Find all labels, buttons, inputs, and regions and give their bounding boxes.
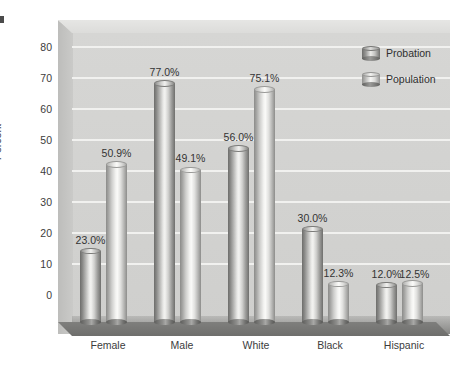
y-tick-20: 20 (26, 228, 52, 239)
bar-body (376, 285, 397, 322)
plot-top-edge (58, 20, 450, 33)
y-tick-10: 10 (26, 259, 52, 270)
bar-body (180, 170, 201, 322)
bar-cap (402, 280, 423, 287)
legend-swatch-probation-icon (362, 46, 380, 61)
bar-body (80, 251, 101, 322)
y-tick-30: 30 (26, 197, 52, 208)
x-tick-male: Male (152, 339, 212, 351)
bar-cap (254, 86, 275, 93)
y-axis-label: Percent (0, 124, 3, 160)
bar-body (402, 283, 423, 322)
legend-label-probation: Probation (386, 47, 431, 59)
bar-cap (106, 161, 127, 168)
bar-cap (80, 248, 101, 255)
y-tick-70: 70 (26, 73, 52, 84)
bar-cap (154, 80, 175, 87)
bar-label-black-probation: 30.0% (286, 212, 339, 224)
bar-chart: Percent 80 70 60 50 40 30 20 10 0 (0, 0, 461, 369)
bar-body (328, 284, 349, 322)
bar-hispanic-population (402, 283, 423, 322)
legend-item-population[interactable]: Population (362, 68, 454, 94)
bar-female-population (106, 164, 127, 322)
bar-male-population (180, 170, 201, 322)
y-tick-60: 60 (26, 104, 52, 115)
bar-black-population (328, 284, 349, 322)
bar-white-probation (228, 148, 249, 322)
bar-cap (180, 167, 201, 174)
bar-label-female-population: 50.9% (90, 147, 143, 159)
bar-label-hispanic-population: 12.5% (388, 268, 441, 280)
page-edge-mark (0, 16, 4, 23)
legend-item-probation[interactable]: Probation (362, 42, 454, 68)
bar-hispanic-probation (376, 285, 397, 322)
legend-label-population: Population (386, 73, 436, 85)
y-tick-80: 80 (26, 42, 52, 53)
bar-white-population (254, 89, 275, 322)
bar-label-male-probation: 77.0% (138, 66, 191, 78)
x-tick-female: Female (78, 339, 138, 351)
plot-left-wall (58, 20, 73, 334)
bar-label-white-population: 75.1% (238, 72, 291, 84)
bar-body (254, 89, 275, 322)
bar-body (106, 164, 127, 322)
x-tick-black: Black (300, 339, 360, 351)
chart-legend: Probation Population (362, 42, 454, 94)
y-tick-0: 0 (26, 290, 52, 301)
bar-label-black-population: 12.3% (312, 267, 365, 279)
bar-male-probation (154, 83, 175, 322)
y-axis-ticks: 80 70 60 50 40 30 20 10 0 (22, 0, 52, 369)
bar-label-male-population: 49.1% (164, 152, 217, 164)
bar-body (154, 83, 175, 322)
bar-body (228, 148, 249, 322)
x-tick-hispanic: Hispanic (372, 339, 436, 351)
bar-cap (376, 282, 397, 289)
y-tick-40: 40 (26, 166, 52, 177)
legend-swatch-population-icon (362, 72, 380, 87)
bar-cap (228, 145, 249, 152)
x-tick-white: White (226, 339, 286, 351)
y-tick-50: 50 (26, 135, 52, 146)
bar-female-probation (80, 251, 101, 322)
